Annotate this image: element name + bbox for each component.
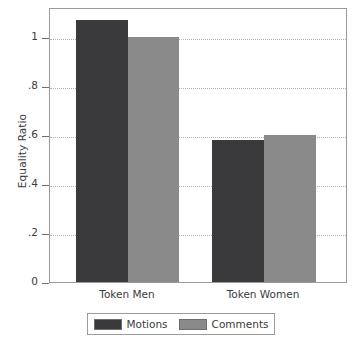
y-tick-label-3: .6 [28,128,38,140]
category-label-token-women: Token Women [211,288,315,300]
bar-token-men-comments [128,37,179,282]
y-axis-title: Equality Ratio [16,81,28,221]
y-tick-label-5: 1 [31,30,38,42]
y-tick-label-1: .2 [28,226,38,238]
y-tick-mark-3 [42,136,49,137]
legend-entry-motions: Motions [94,318,168,330]
bar-token-men-motions [76,20,128,282]
chart-legend: Motions Comments [87,313,275,335]
y-tick-label-4: .8 [28,79,38,91]
y-tick-label-2: .4 [28,177,38,189]
y-tick-mark-4 [42,87,49,88]
y-tick-label-0: 0 [31,275,38,287]
category-label-token-men: Token Men [75,288,179,300]
y-tick-mark-0 [42,283,49,284]
comments-swatch-icon [179,319,207,330]
legend-entry-comments: Comments [179,318,269,330]
bar-token-women-motions [212,140,264,282]
bar-chart-figure: Equality Ratio 0 .2 .4 .6 .8 1 [0,0,362,345]
y-tick-mark-1 [42,234,49,235]
legend-label-motions: Motions [127,318,168,330]
y-tick-mark-2 [42,185,49,186]
plot-area [49,8,347,283]
legend-label-comments: Comments [212,318,269,330]
bar-token-women-comments [264,135,316,282]
motions-swatch-icon [94,319,122,330]
y-tick-mark-5 [42,38,49,39]
